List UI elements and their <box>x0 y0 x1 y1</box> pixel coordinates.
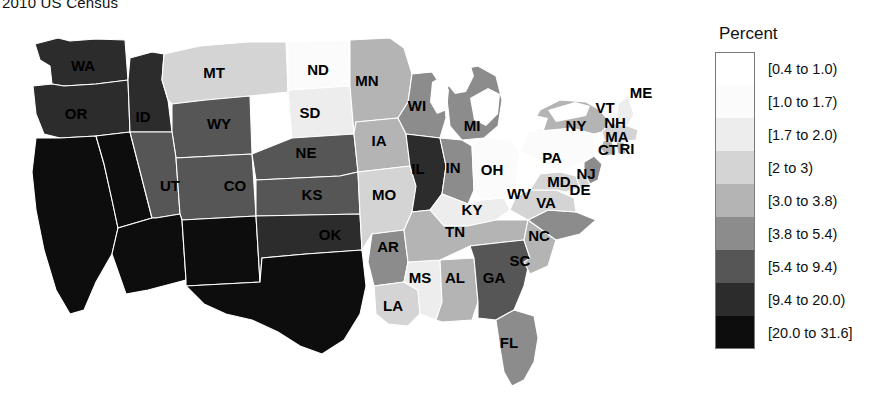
state-label-wv: WV <box>507 185 531 202</box>
state-label-co: CO <box>224 177 247 194</box>
legend-row: [9.4 to 20.0) <box>715 283 867 316</box>
legend-row: [1.0 to 1.7) <box>715 85 867 118</box>
legend-label: [1.0 to 1.7) <box>768 94 837 110</box>
state-label-id: ID <box>136 108 151 125</box>
choropleth-figure: 2010 US Census WAORIDMTWYUTCONDSDNEKSOKM… <box>0 0 869 400</box>
state-label-ky: KY <box>462 201 483 218</box>
state-label-de: DE <box>570 181 591 198</box>
state-label-wy: WY <box>207 115 231 132</box>
state-label-ga: GA <box>483 269 506 286</box>
state-label-mo: MO <box>372 186 396 203</box>
state-label-me: ME <box>630 84 653 101</box>
state-label-md: MD <box>547 173 570 190</box>
us-choropleth-map: WAORIDMTWYUTCONDSDNEKSOKMNIAMOARLAMSALWI… <box>0 14 706 400</box>
legend-swatch <box>715 283 755 316</box>
state-label-ks: KS <box>302 186 323 203</box>
state-label-sc: SC <box>510 252 531 269</box>
state-mt[interactable] <box>162 42 288 104</box>
legend-label: [9.4 to 20.0) <box>768 292 845 308</box>
legend-swatch <box>715 217 755 250</box>
legend-label: [5.4 to 9.4) <box>768 259 837 275</box>
state-az[interactable] <box>112 214 186 294</box>
legend-swatch <box>715 85 755 118</box>
state-label-sd: SD <box>300 104 321 121</box>
state-label-ar: AR <box>377 238 399 255</box>
chart-title: 2010 US Census <box>2 0 118 11</box>
state-label-nd: ND <box>307 61 329 78</box>
legend-rows: [0.4 to 1.0)[1.0 to 1.7)[1.7 to 2.0)[2 t… <box>715 52 867 349</box>
state-label-ia: IA <box>372 132 387 149</box>
legend-row: [20.0 to 31.6] <box>715 316 867 349</box>
state-label-ny: NY <box>566 117 587 134</box>
legend-row: [5.4 to 9.4) <box>715 250 867 283</box>
legend: Percent [0.4 to 1.0)[1.0 to 1.7)[1.7 to … <box>715 24 867 349</box>
state-label-ct: CT <box>598 141 618 158</box>
state-label-nc: NC <box>528 227 550 244</box>
legend-row: [3.0 to 3.8) <box>715 184 867 217</box>
state-label-ne: NE <box>296 144 317 161</box>
state-label-oh: OH <box>481 161 504 178</box>
state-label-al: AL <box>445 269 465 286</box>
state-al[interactable] <box>436 258 478 322</box>
legend-row: [1.7 to 2.0) <box>715 118 867 151</box>
us-map-svg: WAORIDMTWYUTCONDSDNEKSOKMNIAMOARLAMSALWI… <box>0 14 706 400</box>
legend-row: [0.4 to 1.0) <box>715 52 867 85</box>
legend-swatch <box>715 118 755 151</box>
state-label-fl: FL <box>500 334 518 351</box>
state-label-mn: MN <box>355 72 378 89</box>
legend-swatch <box>715 250 755 283</box>
state-label-ut: UT <box>160 177 180 194</box>
legend-label: [0.4 to 1.0) <box>768 61 837 77</box>
legend-swatch <box>715 184 755 217</box>
legend-label: [20.0 to 31.6] <box>768 325 853 341</box>
state-label-wi: WI <box>408 97 426 114</box>
state-label-in: IN <box>446 159 461 176</box>
state-label-nj: NJ <box>576 165 595 182</box>
legend-row: [2 to 3) <box>715 151 867 184</box>
state-label-or: OR <box>65 105 88 122</box>
legend-label: [3.0 to 3.8) <box>768 193 837 209</box>
state-label-pa: PA <box>542 149 562 166</box>
state-label-va: VA <box>536 194 556 211</box>
legend-swatch <box>715 151 755 184</box>
state-label-la: LA <box>383 297 403 314</box>
state-label-ok: OK <box>319 226 342 243</box>
state-nm[interactable] <box>182 216 260 286</box>
legend-label: [3.8 to 5.4) <box>768 226 837 242</box>
state-label-mt: MT <box>203 64 225 81</box>
state-sd[interactable] <box>288 86 354 138</box>
legend-label: [1.7 to 2.0) <box>768 127 837 143</box>
state-label-tn: TN <box>445 223 465 240</box>
legend-swatch <box>715 52 755 85</box>
state-label-wa: WA <box>71 57 95 74</box>
state-label-ri: RI <box>620 140 635 157</box>
state-label-il: IL <box>411 160 424 177</box>
legend-title: Percent <box>719 24 867 44</box>
state-label-mi: MI <box>464 117 481 134</box>
state-label-ms: MS <box>409 269 432 286</box>
legend-label: [2 to 3) <box>768 160 813 176</box>
legend-swatch <box>715 316 755 349</box>
legend-row: [3.8 to 5.4) <box>715 217 867 250</box>
states-layer <box>32 38 664 386</box>
